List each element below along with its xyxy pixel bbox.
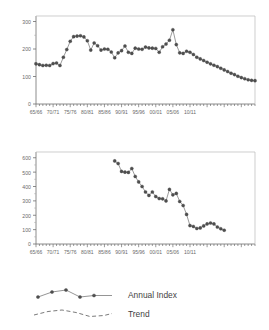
data-point-marker (192, 53, 195, 56)
data-point-marker (117, 51, 120, 54)
data-point-marker (144, 46, 147, 49)
data-point-marker (161, 197, 164, 200)
bottom-chart-panel: 010020030040050060065/6670/7175/7680/818… (0, 138, 269, 280)
data-point-marker (253, 79, 256, 82)
x-tick-label: 95/96 (132, 249, 145, 255)
data-point-marker (106, 48, 109, 51)
data-point-marker (223, 68, 226, 71)
data-point-marker (110, 50, 113, 53)
series-line-annual-index (36, 30, 255, 81)
data-point-marker (134, 47, 137, 50)
data-point-marker (182, 52, 185, 55)
annual-index-bottom-chart: 010020030040050060065/6670/7175/7680/818… (0, 138, 269, 280)
data-point-marker (34, 62, 37, 65)
y-tick-label: 100 (22, 227, 31, 233)
data-point-marker (144, 190, 147, 193)
data-point-marker (230, 72, 233, 75)
legend-line-trend (34, 310, 112, 317)
data-point-marker (147, 46, 150, 49)
data-point-marker (151, 47, 154, 50)
data-point-marker (212, 64, 215, 67)
legend-marker (78, 295, 81, 298)
top-chart-panel: 10020030065/6670/7175/7680/8185/8690/919… (0, 0, 269, 140)
y-tick-label: 300 (22, 198, 31, 204)
data-point-marker (120, 170, 123, 173)
data-point-marker (209, 221, 212, 224)
data-point-marker (127, 171, 130, 174)
x-tick-label: 90/91 (115, 249, 128, 255)
legend-label-annual-index: Annual Index (128, 290, 178, 300)
data-point-marker (223, 229, 226, 232)
data-point-marker (243, 77, 246, 80)
data-point-marker (240, 76, 243, 79)
data-point-marker (188, 51, 191, 54)
y-tick-label: 500 (22, 170, 31, 176)
data-point-marker (185, 213, 188, 216)
data-point-marker (48, 64, 51, 67)
x-tick-label: 05/06 (167, 109, 180, 115)
data-point-marker (96, 44, 99, 47)
data-point-marker (219, 227, 222, 230)
data-point-marker (199, 57, 202, 60)
data-point-marker (113, 56, 116, 59)
data-point-marker (113, 159, 116, 162)
data-point-marker (219, 67, 222, 70)
data-point-marker (38, 63, 41, 66)
data-point-marker (62, 56, 65, 59)
data-point-marker (178, 200, 181, 203)
data-point-marker (161, 45, 164, 48)
x-tick-label: 10/11 (184, 249, 196, 255)
annual-index-top-chart: 10020030065/6670/7175/7680/8185/8690/919… (0, 0, 269, 140)
y-tick-label: 600 (22, 155, 31, 161)
series-line-annual-index (115, 161, 225, 230)
x-tick-label: 75/76 (64, 109, 77, 115)
data-point-marker (168, 188, 171, 191)
data-point-marker (89, 49, 92, 52)
data-point-marker (192, 225, 195, 228)
data-point-marker (52, 62, 55, 65)
x-tick-label: 75/76 (64, 249, 77, 255)
data-point-marker (236, 75, 239, 78)
data-point-marker (55, 61, 58, 64)
x-tick-label: 00/01 (150, 249, 163, 255)
data-point-marker (147, 194, 150, 197)
data-point-marker (226, 70, 229, 73)
x-tick-label: 65/66 (30, 249, 43, 255)
data-point-marker (134, 175, 137, 178)
legend-marker (92, 294, 95, 297)
legend-marker (36, 295, 39, 298)
x-tick-label: 70/71 (47, 249, 60, 255)
data-point-marker (202, 224, 205, 227)
x-tick-label: 65/66 (30, 109, 43, 115)
data-point-marker (154, 195, 157, 198)
data-point-marker (86, 39, 89, 42)
data-point-marker (175, 43, 178, 46)
y-tick-label: 200 (22, 46, 31, 52)
x-tick-label: 90/91 (115, 109, 128, 115)
data-point-marker (178, 51, 181, 54)
y-tick-label: 0 (28, 241, 31, 247)
data-point-marker (130, 167, 133, 170)
data-point-marker (216, 225, 219, 228)
data-point-marker (41, 64, 44, 67)
data-point-marker (216, 65, 219, 68)
data-point-marker (151, 190, 154, 193)
x-tick-label: 80/81 (81, 109, 94, 115)
data-point-marker (99, 49, 102, 52)
data-point-marker (212, 222, 215, 225)
x-tick-label: 10/11 (184, 109, 196, 115)
x-tick-label: 70/71 (47, 109, 60, 115)
y-tick-label: 400 (22, 184, 31, 190)
data-point-marker (164, 199, 167, 202)
data-point-marker (120, 49, 123, 52)
data-point-marker (69, 40, 72, 43)
x-tick-label: 95/96 (132, 109, 145, 115)
x-tick-label: 00/01 (150, 109, 163, 115)
data-point-marker (137, 180, 140, 183)
data-point-marker (141, 48, 144, 51)
data-point-marker (123, 44, 126, 47)
data-point-marker (171, 193, 174, 196)
legend-graphic: Annual IndexTrend (0, 282, 269, 330)
data-point-marker (65, 48, 68, 51)
data-point-marker (168, 39, 171, 42)
